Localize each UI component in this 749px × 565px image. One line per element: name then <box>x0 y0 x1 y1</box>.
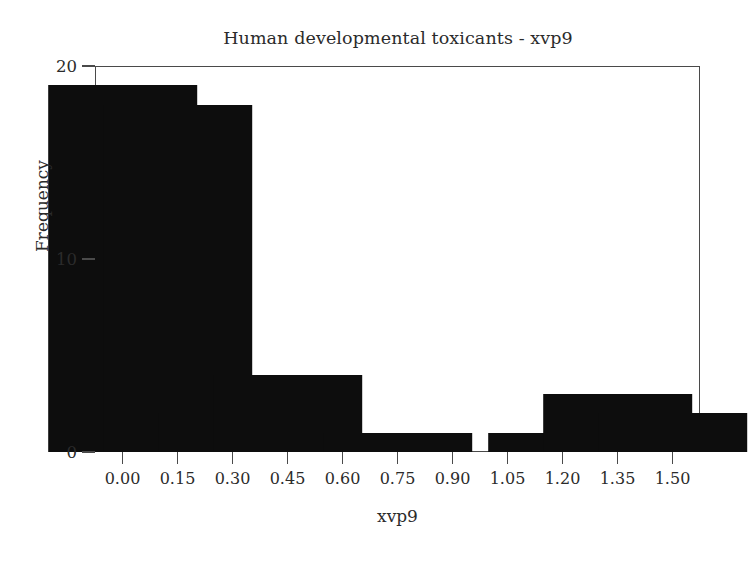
y-axis-tick <box>82 451 95 452</box>
y-axis-tick-label: 20 <box>17 57 77 76</box>
x-axis-tick <box>287 452 288 464</box>
bars-layer <box>95 66 700 452</box>
x-axis-label: xvp9 <box>95 506 700 526</box>
y-axis-tick <box>82 65 95 66</box>
x-axis-tick <box>672 452 673 464</box>
chart-title: Human developmental toxicants - xvp9 <box>95 28 701 48</box>
y-axis-tick <box>82 258 95 259</box>
histogram-bar <box>598 413 748 452</box>
histogram-bar <box>323 433 473 452</box>
y-axis-tick-label: 0 <box>17 443 77 462</box>
x-axis-tick <box>232 452 233 464</box>
x-axis-tick <box>342 452 343 464</box>
x-axis-tick <box>397 452 398 464</box>
x-axis-tick <box>507 452 508 464</box>
x-axis-tick <box>177 452 178 464</box>
x-axis-tick <box>122 452 123 464</box>
y-axis-tick-label: 10 <box>17 250 77 269</box>
y-axis-label: Frequency <box>32 146 52 266</box>
x-axis-tick <box>562 452 563 464</box>
histogram-figure: Human developmental toxicants - xvp9 Fre… <box>0 0 749 565</box>
x-axis-tick <box>452 452 453 464</box>
x-axis-tick-label: 1.50 <box>638 469 708 488</box>
x-axis-tick <box>617 452 618 464</box>
